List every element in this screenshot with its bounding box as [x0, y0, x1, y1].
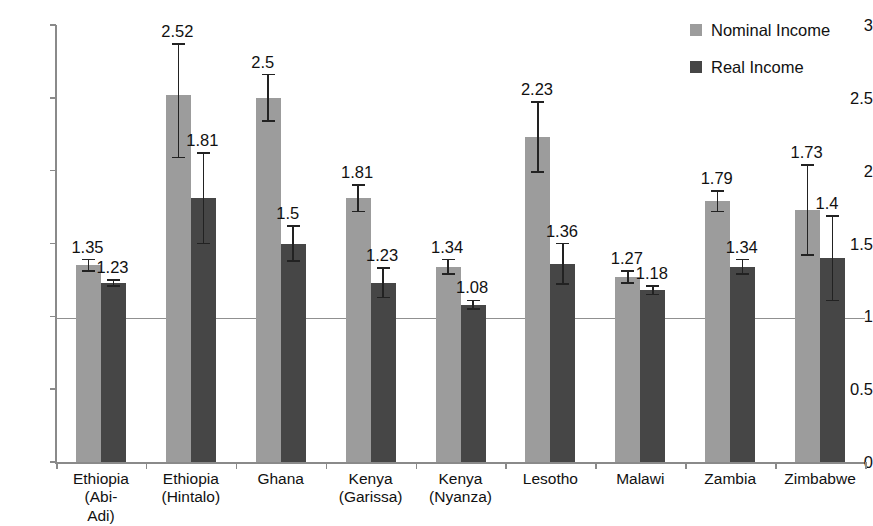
error-bar — [203, 153, 205, 243]
bar-value-label: 1.36 — [546, 223, 578, 240]
error-bar — [807, 165, 809, 255]
bar-value-label: 1.73 — [791, 144, 823, 161]
legend-label-nominal: Nominal Income — [711, 22, 830, 39]
bar — [76, 265, 101, 462]
x-tick-mark — [146, 462, 148, 469]
legend-item-nominal: Nominal Income — [690, 22, 830, 39]
x-tick-mark — [236, 462, 238, 469]
error-bar-cap — [107, 285, 120, 287]
error-bar-cap — [352, 211, 365, 213]
legend-label-real: Real Income — [711, 59, 804, 76]
error-bar-cap — [531, 101, 544, 103]
bar-value-label: 1.81 — [186, 132, 218, 149]
error-bar-cap — [377, 297, 390, 299]
error-bar — [382, 268, 384, 297]
error-bar-cap — [172, 157, 185, 159]
error-bar-cap — [107, 279, 120, 281]
error-bar — [742, 260, 744, 275]
bar — [371, 283, 396, 462]
bar-value-label: 1.23 — [366, 247, 398, 264]
y-tick-label: 3 — [829, 17, 873, 34]
bar — [346, 198, 371, 462]
error-bar — [447, 260, 449, 275]
error-bar-cap — [556, 283, 569, 285]
error-bar-cap — [736, 273, 749, 275]
error-bar-cap — [826, 300, 839, 302]
bar-value-label: 2.5 — [251, 54, 274, 71]
bar — [730, 267, 755, 462]
category-label: Lesotho — [505, 470, 595, 488]
bar-value-label: 1.18 — [636, 265, 668, 282]
bar-value-label: 1.35 — [71, 239, 103, 256]
x-tick-mark — [505, 462, 507, 469]
bar-value-label: 2.23 — [521, 81, 553, 98]
error-bar-cap — [197, 243, 210, 245]
error-bar-cap — [646, 294, 659, 296]
error-bar-cap — [82, 270, 95, 272]
bar — [525, 137, 550, 462]
bar — [550, 264, 575, 462]
error-bar-cap — [262, 74, 275, 76]
error-bar-cap — [801, 254, 814, 256]
error-bar — [832, 216, 834, 300]
error-bar — [178, 44, 180, 158]
error-bar — [357, 185, 359, 211]
x-tick-mark — [685, 462, 687, 469]
y-tick-mark — [50, 97, 56, 99]
x-axis-line — [55, 462, 865, 464]
error-bar — [717, 191, 719, 211]
y-tick-label: 2 — [829, 163, 873, 180]
bar — [615, 277, 640, 462]
error-bar-cap — [711, 211, 724, 213]
bar-value-label: 1.5 — [276, 205, 299, 222]
error-bar-cap — [467, 308, 480, 310]
category-label: Ethiopia (Abi- Adi) — [56, 470, 146, 525]
error-bar-cap — [621, 282, 634, 284]
error-bar-cap — [442, 259, 455, 261]
error-bar — [562, 244, 564, 285]
error-bar-cap — [352, 184, 365, 186]
error-bar-cap — [197, 152, 210, 154]
error-bar — [537, 102, 539, 172]
bar-value-label: 1.81 — [341, 164, 373, 181]
bar — [256, 98, 281, 462]
y-tick-label: 2.5 — [829, 90, 873, 107]
bar-value-label: 1.79 — [701, 170, 733, 187]
y-tick-mark — [50, 243, 56, 245]
category-label: Zambia — [685, 470, 775, 488]
error-bar-cap — [287, 225, 300, 227]
error-bar-cap — [172, 43, 185, 45]
bar — [101, 283, 126, 462]
x-tick-mark — [416, 462, 418, 469]
y-tick-mark — [50, 170, 56, 172]
error-bar-cap — [556, 243, 569, 245]
x-tick-mark — [326, 462, 328, 469]
error-bar-cap — [377, 267, 390, 269]
error-bar-cap — [531, 171, 544, 173]
x-tick-mark — [865, 462, 867, 469]
bar-value-label: 1.23 — [96, 259, 128, 276]
y-tick-mark — [50, 24, 56, 26]
error-bar — [292, 226, 294, 261]
chart-legend: Nominal Income Real Income — [690, 22, 830, 95]
x-tick-mark — [775, 462, 777, 469]
error-bar-cap — [801, 164, 814, 166]
error-bar-cap — [442, 273, 455, 275]
bar — [436, 267, 461, 462]
y-tick-mark — [50, 388, 56, 390]
x-tick-mark — [595, 462, 597, 469]
bar — [640, 290, 665, 462]
y-tick-mark — [50, 316, 56, 318]
bar-value-label: 1.4 — [816, 195, 839, 212]
error-bar-cap — [711, 190, 724, 192]
x-tick-mark — [56, 462, 58, 469]
bar — [281, 244, 306, 463]
category-label: Kenya (Garissa) — [326, 470, 416, 507]
error-bar-cap — [287, 260, 300, 262]
category-label: Ethiopia (Hintalo) — [146, 470, 236, 507]
error-bar-cap — [826, 215, 839, 217]
error-bar-cap — [646, 285, 659, 287]
category-label: Zimbabwe — [775, 470, 865, 488]
category-label: Kenya (Nyanza) — [416, 470, 506, 507]
error-bar-cap — [467, 300, 480, 302]
